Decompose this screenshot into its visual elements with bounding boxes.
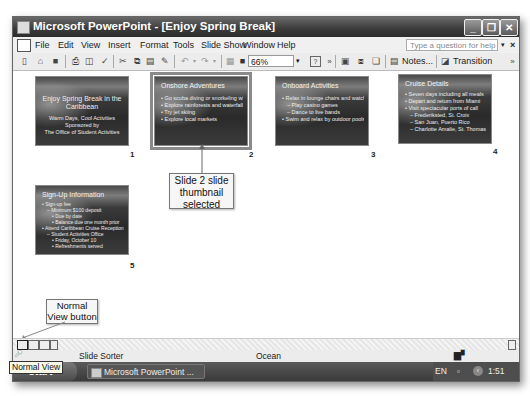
slide-thumbnail-3[interactable]: Onboard Activities • Relax in lounge cha… <box>275 76 369 146</box>
slide-title: Onshore Adventures <box>161 82 225 89</box>
format-painter-icon[interactable]: ✎ <box>159 56 170 67</box>
powerpoint-task-icon <box>91 368 102 378</box>
help-search-input[interactable]: Type a question for help <box>406 39 498 51</box>
save-icon[interactable]: ■ <box>50 56 61 67</box>
show-grid-icon[interactable]: ▦ <box>225 56 236 67</box>
bullet: – Frederiksted, St. Croix <box>405 112 487 119</box>
toolbar-overflow-icon[interactable]: » <box>507 56 518 67</box>
help-dropdown-icon[interactable]: ▾ <box>501 41 505 49</box>
help-icon[interactable]: ? <box>310 56 321 67</box>
color-grayscale-icon[interactable]: ■ <box>237 56 248 67</box>
menu-format[interactable]: Format <box>140 40 169 50</box>
bullet: • Visit spectacular ports of call <box>405 105 487 112</box>
spelling-status-icon: ▆▘ <box>454 350 468 360</box>
clock: 1:51 PM <box>488 362 519 382</box>
menu-tools[interactable]: Tools <box>173 40 194 50</box>
powerpoint-window: Microsoft PowerPoint - [Enjoy Spring Bre… <box>12 16 520 382</box>
bullet: • Refreshments served <box>42 243 124 249</box>
menu-window[interactable]: Window <box>243 40 275 50</box>
bullet: – Play casino games <box>282 102 364 109</box>
cut-icon[interactable]: ✂ <box>117 56 128 67</box>
slide-bullets: • Relax in lounge chairs and watch shows… <box>282 95 364 123</box>
zoom-input[interactable]: 66% <box>248 55 294 67</box>
powerpoint-app-icon <box>17 21 30 34</box>
toolbar-separator <box>436 55 437 68</box>
network-icon[interactable]: ▫ <box>457 362 460 381</box>
restore-button[interactable]: ❐ <box>482 19 500 36</box>
bullet: – Charlotte Amalie, St. Thomas <box>405 126 487 133</box>
slide-number-5: 5 <box>130 261 134 270</box>
taskbar-item-label: Microsoft PowerPoint ... <box>104 367 194 377</box>
menu-bar: File Edit View Insert Format Tools Slide… <box>13 37 519 53</box>
toolbar-separator <box>335 55 336 68</box>
open-icon[interactable]: ⌂ <box>35 56 46 67</box>
bullet: – Dance to live bands <box>282 109 364 116</box>
menu-file[interactable]: File <box>35 40 50 50</box>
slide-show-icon[interactable]: ▣ <box>340 56 351 67</box>
toolbar-options-icon[interactable]: » <box>324 56 335 67</box>
menu-insert[interactable]: Insert <box>108 40 131 50</box>
language-indicator[interactable]: EN <box>435 362 447 381</box>
window-title: Microsoft PowerPoint - [Enjoy Spring Bre… <box>33 20 275 32</box>
slide-subtitle: Warm Days, Cool Activities <box>36 115 128 122</box>
taskbar-powerpoint-item[interactable]: Microsoft PowerPoint ... <box>87 364 205 379</box>
summary-slide-icon[interactable]: ❏ <box>370 56 381 67</box>
tray-expand-icon[interactable]: ‹ <box>473 366 483 376</box>
callout-normal-view-button: Normal View button <box>46 299 98 324</box>
taskbar: start Microsoft PowerPoint ... EN ▫ ‹ 1:… <box>13 362 519 381</box>
toolbar-separator <box>65 55 66 68</box>
menu-edit[interactable]: Edit <box>58 40 74 50</box>
scroll-right-button[interactable] <box>508 340 516 350</box>
transition-icon[interactable]: ◪ <box>440 56 451 67</box>
slide-thumbnail-4[interactable]: Cruise Details • Seven days including al… <box>398 74 492 144</box>
redo-dropdown-icon[interactable]: ▾ <box>209 56 220 67</box>
slide-thumbnail-2[interactable]: Onshore Adventures • Go scuba diving or … <box>154 76 248 146</box>
slide-number-3: 3 <box>371 150 375 159</box>
notes-button[interactable]: Notes... <box>402 56 433 66</box>
status-bar: Slide Sorter Ocean ▆▘ <box>13 350 519 362</box>
toolbar-separator <box>113 55 114 68</box>
print-preview-icon[interactable]: ◫ <box>84 56 95 67</box>
transition-button[interactable]: Transition <box>453 56 492 66</box>
menu-view[interactable]: View <box>81 40 100 50</box>
slide-title: Sign-Up Information <box>42 191 104 198</box>
spelling-icon[interactable]: ✓ <box>99 56 110 67</box>
bullet: • Try jet skiing <box>161 109 243 116</box>
standard-toolbar: ▯ ⌂ ■ ⎙ ◫ ✓ ✂ ⧉ ▤ ✎ ↶ ▾ ↷ ▾ ▦ ■ 66% ▾ ? … <box>13 53 519 71</box>
menu-slide-show[interactable]: Slide Show <box>201 40 246 50</box>
minimize-button[interactable]: _ <box>464 19 482 36</box>
new-icon[interactable]: ▯ <box>19 56 30 67</box>
close-document-button[interactable]: × <box>510 40 515 50</box>
mouse-pointer-icon: ➚ <box>14 347 23 360</box>
close-button[interactable]: ✕ <box>500 19 518 36</box>
slide-number-1: 1 <box>130 150 134 159</box>
notes-icon[interactable]: ▤ <box>389 56 400 67</box>
slide-thumbnail-5[interactable]: Sign-Up Information • Sign-up fee – Mini… <box>35 185 129 255</box>
status-design-template: Ocean <box>256 351 281 361</box>
system-tray: EN ▫ ‹ 1:51 PM <box>433 362 519 381</box>
print-icon[interactable]: ⎙ <box>70 56 81 67</box>
hide-slide-icon[interactable]: ⧈ <box>355 56 366 67</box>
bullet: • Explore rainforests and waterfalls <box>161 102 243 109</box>
slide-bullets: • Sign-up fee – Minimum $100 deposit • D… <box>42 201 124 249</box>
slide-subtitle: Sponsored by <box>36 122 128 129</box>
zoom-dropdown-icon[interactable]: ▾ <box>296 57 300 65</box>
slide-sorter-view-button[interactable] <box>28 340 39 350</box>
slide-sorter-pane: Enjoy Spring Break in the Caribbean Warm… <box>13 71 519 338</box>
slide-bullets: • Seven days including all meals • Depar… <box>405 91 487 133</box>
toolbar-separator <box>174 55 175 68</box>
callout-slide-2-selected: Slide 2 slide thumbnail selected <box>169 173 234 209</box>
slide-subtitle: The Office of Student Activities <box>36 129 128 136</box>
document-icon[interactable] <box>17 39 31 52</box>
copy-icon[interactable]: ⧉ <box>131 56 142 67</box>
bullet: • Explore local markets <box>161 116 243 123</box>
status-view: Slide Sorter <box>79 351 123 361</box>
slide-thumbnail-1[interactable]: Enjoy Spring Break in the Caribbean Warm… <box>35 76 129 146</box>
slide-show-button[interactable] <box>39 340 50 350</box>
paste-icon[interactable]: ▤ <box>145 56 156 67</box>
menu-help[interactable]: Help <box>277 40 296 50</box>
bullet: • Swim and relax by outdoor pools and wh… <box>282 116 364 123</box>
scroll-left-button[interactable] <box>50 340 58 350</box>
toolbar-separator <box>385 55 386 68</box>
slide-title: Enjoy Spring Break in the Caribbean <box>36 95 128 111</box>
